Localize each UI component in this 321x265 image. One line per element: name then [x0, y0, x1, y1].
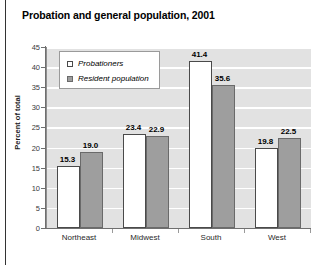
legend-label-probationers: Probationers	[78, 59, 123, 68]
gridline	[47, 127, 311, 129]
y-axis-tick-mark	[41, 127, 45, 128]
y-axis-tick-label: 30	[24, 103, 40, 112]
y-axis-tick-mark	[41, 67, 45, 68]
gridline	[47, 47, 311, 49]
bar-midwest-probationers	[123, 134, 146, 228]
legend-swatch-icon-resident	[67, 76, 73, 82]
y-axis-tick-label: 25	[24, 123, 40, 132]
y-axis-tick-mark	[41, 208, 45, 209]
x-axis-tick-mark	[244, 229, 245, 233]
bar-south-resident	[212, 85, 235, 228]
page-left-rule	[5, 0, 6, 265]
y-axis-tick-label: 20	[24, 143, 40, 152]
x-axis-tick-label-northeast: Northeast	[62, 233, 97, 242]
y-axis-tick-mark	[41, 228, 45, 229]
bar-value-label: 41.4	[192, 50, 208, 59]
y-axis-tick-label: 10	[24, 183, 40, 192]
bar-value-label: 35.6	[215, 74, 231, 83]
bar-value-label: 22.9	[149, 125, 165, 134]
chart-figure: Probation and general population, 2001 0…	[0, 0, 321, 265]
gridline	[47, 107, 311, 109]
bar-value-label: 15.3	[60, 155, 76, 164]
x-axis-tick-mark	[310, 229, 311, 233]
y-axis-tick-label: 35	[24, 83, 40, 92]
bar-west-probationers	[255, 148, 278, 228]
x-axis-tick-mark	[112, 229, 113, 233]
y-axis-tick-mark	[41, 87, 45, 88]
bar-northeast-resident	[80, 152, 103, 228]
y-axis-tick-labels: 051015202530354045	[22, 0, 40, 265]
y-axis-tick-label: 0	[24, 224, 40, 233]
bar-west-resident	[278, 138, 301, 229]
y-axis-tick-label: 15	[24, 163, 40, 172]
y-axis-tick-mark	[41, 168, 45, 169]
x-axis-tick-label-south: South	[201, 233, 222, 242]
bar-value-label: 22.5	[281, 127, 297, 136]
legend-item-probationers: Probationers	[67, 59, 123, 68]
legend-item-resident: Resident population	[67, 74, 149, 83]
x-axis-tick-label-west: West	[268, 233, 286, 242]
x-axis-tick-label-midwest: Midwest	[130, 233, 159, 242]
y-axis-tick-mark	[41, 107, 45, 108]
y-axis-tick-label: 5	[24, 203, 40, 212]
y-axis-tick-mark	[41, 47, 45, 48]
y-axis-tick-mark	[41, 188, 45, 189]
y-axis-tick-label: 40	[24, 63, 40, 72]
chart-legend: Probationers Resident population	[59, 51, 160, 89]
x-axis-tick-mark	[178, 229, 179, 233]
legend-label-resident: Resident population	[78, 74, 149, 83]
page-title: Probation and general population, 2001	[22, 9, 215, 21]
y-axis-tick-label: 45	[24, 43, 40, 52]
y-axis-title: Percent of total	[13, 88, 22, 158]
bar-south-probationers	[189, 61, 212, 228]
bar-value-label: 19.0	[83, 141, 99, 150]
legend-swatch-icon-probationers	[67, 61, 73, 67]
bar-midwest-resident	[146, 136, 169, 228]
bar-northeast-probationers	[57, 166, 80, 228]
bar-value-label: 19.8	[258, 137, 274, 146]
y-axis-tick-mark	[41, 148, 45, 149]
bar-value-label: 23.4	[126, 123, 142, 132]
